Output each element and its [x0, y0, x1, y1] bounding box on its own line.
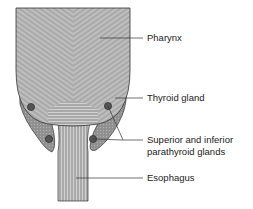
label-pharynx: Pharynx — [147, 32, 182, 43]
anatomy-diagram — [0, 0, 253, 209]
label-thyroid-gland: Thyroid gland — [147, 92, 205, 103]
parathyroid-superior-left — [27, 103, 34, 110]
label-parathyroid-line2: parathyroid glands — [147, 146, 225, 157]
label-esophagus: Esophagus — [147, 172, 195, 183]
label-parathyroid-line1: Superior and inferior — [147, 134, 233, 145]
esophagus — [58, 122, 90, 201]
parathyroid-inferior-left — [45, 135, 52, 142]
